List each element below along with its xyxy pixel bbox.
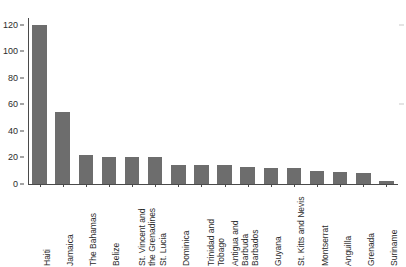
x-axis-tick-label: St. Vincent andthe Grenadines [138, 188, 157, 266]
x-axis-tick-label: Suriname [390, 188, 400, 266]
x-axis-tick-label-line: Belize [112, 188, 122, 266]
x-axis-tick-label-line: Haiti [43, 188, 53, 266]
x-axis-tick-label: Guyana [274, 188, 284, 266]
x-axis-tick-label: Trinidad andTobago [207, 188, 226, 266]
bar-slot [32, 18, 47, 184]
x-axis-tick-label: Jamaica [66, 188, 76, 266]
x-axis-tick-label: Dominica [182, 188, 192, 266]
x-axis-tick-label: The Bahamas [89, 188, 99, 266]
x-axis-tick-label: Belize [112, 188, 122, 266]
x-axis-tick-label: St. Lucia [159, 188, 169, 266]
x-axis-tick-mark [271, 184, 272, 187]
bar [356, 173, 371, 184]
x-axis-tick-label-line: the Grenadines [148, 188, 158, 266]
x-axis-tick-label-line: Tobago [217, 188, 227, 266]
y-axis-tick-mark [20, 104, 24, 105]
y-axis-tick-mark [20, 184, 24, 185]
x-axis-tick-label-line: Anguilla [344, 188, 354, 266]
x-axis-tick-mark [132, 184, 133, 187]
bar-slot [217, 18, 232, 184]
bar [217, 165, 232, 184]
x-axis-tick-mark [201, 184, 202, 187]
bar [125, 157, 140, 184]
x-axis-tick-mark [109, 184, 110, 187]
bar [310, 171, 325, 184]
x-axis-tick-mark [294, 184, 295, 187]
bar [79, 155, 94, 184]
x-axis-tick-mark [363, 184, 364, 187]
bar-slot [55, 18, 70, 184]
y-axis: 020406080100120 [0, 0, 28, 267]
plot-area [28, 18, 398, 184]
x-axis-tick-label-line: Barbados [251, 188, 261, 266]
y-axis-tick-mark [20, 77, 24, 78]
bar-slot [79, 18, 94, 184]
x-axis-tick-label: Grenada [367, 188, 377, 266]
bar-slot [102, 18, 117, 184]
y-axis-tick-label: 40 [8, 126, 18, 135]
bar [55, 112, 70, 184]
x-axis-tick-label-line: Antigua and [231, 188, 241, 266]
x-axis-tick-mark [155, 184, 156, 187]
bar-slot [287, 18, 302, 184]
bar [264, 168, 279, 184]
x-axis-tick-label-line: St. Lucia [159, 188, 169, 266]
x-axis: HaitiJamaicaThe BahamasBelizeSt. Vincent… [28, 188, 398, 267]
y-axis-tick-label: 80 [8, 73, 18, 82]
bar-slot [379, 18, 394, 184]
x-axis-tick-label-line: The Bahamas [89, 188, 99, 266]
bar-slot [171, 18, 186, 184]
x-axis-tick-label-line: Montserrat [321, 188, 331, 266]
y-axis-tick-label: 60 [8, 100, 18, 109]
x-axis-tick-label: Barbados [251, 188, 261, 266]
x-axis-tick-label: Antigua andBarbuda [231, 188, 250, 266]
x-axis-tick-mark [248, 184, 249, 187]
y-axis-tick-label: 100 [3, 47, 18, 56]
x-axis-tick-mark [386, 184, 387, 187]
y-axis-tick-label: 20 [8, 153, 18, 162]
bar-slot [125, 18, 140, 184]
x-axis-tick-label-line: Guyana [274, 188, 284, 266]
x-axis-tick-mark [178, 184, 179, 187]
x-axis-tick-label: Montserrat [321, 188, 331, 266]
x-axis-tick-mark [317, 184, 318, 187]
right-axis-tick-mark [399, 104, 404, 105]
bar [333, 172, 348, 184]
x-axis-tick-label-line: Grenada [367, 188, 377, 266]
x-axis-tick-label-line: Jamaica [66, 188, 76, 266]
x-axis-tick-mark [40, 184, 41, 187]
x-axis-tick-mark [86, 184, 87, 187]
y-axis-tick-mark [20, 130, 24, 131]
x-axis-spine [28, 184, 398, 185]
bar [194, 165, 209, 184]
bar-slot [356, 18, 371, 184]
x-axis-tick-label: St. Kitts and Nevis [297, 188, 307, 266]
y-axis-tick-mark [20, 24, 24, 25]
bar-slot [148, 18, 163, 184]
x-axis-tick-label: Haiti [43, 188, 53, 266]
x-axis-tick-label-line: Barbuda [240, 188, 250, 266]
bar [148, 157, 163, 184]
x-axis-tick-label: Anguilla [344, 188, 354, 266]
bar [287, 168, 302, 184]
bar [32, 25, 47, 184]
x-axis-tick-mark [63, 184, 64, 187]
x-axis-tick-label-line: St. Kitts and Nevis [297, 188, 307, 266]
y-axis-tick-mark [20, 157, 24, 158]
bar [102, 157, 117, 184]
bar-slot [264, 18, 279, 184]
y-axis-tick-label: 0 [13, 180, 18, 189]
x-axis-tick-label-line: Suriname [390, 188, 400, 266]
bar-slot [240, 18, 255, 184]
y-axis-tick-label: 120 [3, 20, 18, 29]
bar-chart: 020406080100120 HaitiJamaicaThe BahamasB… [0, 0, 406, 267]
x-axis-tick-label-line: Dominica [182, 188, 192, 266]
y-axis-tick-mark [20, 51, 24, 52]
bar-slot [310, 18, 325, 184]
bar [240, 167, 255, 184]
right-axis-tick-mark [399, 24, 404, 25]
bar-slot [194, 18, 209, 184]
x-axis-tick-mark [225, 184, 226, 187]
x-axis-tick-mark [340, 184, 341, 187]
bar [171, 165, 186, 184]
